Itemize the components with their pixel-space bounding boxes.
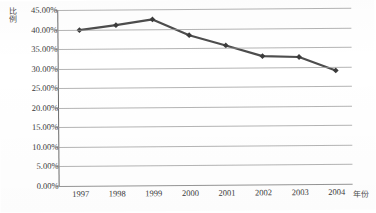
y-axis-tick-label: 45.00% <box>13 6 57 15</box>
x-axis-tick-label: 2002 <box>255 187 272 197</box>
x-axis-tick-label: 2003 <box>292 187 309 197</box>
y-axis-tick-label: 0.00% <box>15 182 59 191</box>
y-axis-tick-label: 35.00% <box>14 45 58 54</box>
plot-area <box>57 8 352 186</box>
data-point-marker <box>113 22 119 28</box>
y-axis-tick-label: 5.00% <box>14 162 58 171</box>
x-axis-tick-label: 2001 <box>218 188 235 198</box>
x-axis-tick-label: 2000 <box>182 188 199 198</box>
x-axis-tick-labels: 19971998199920002001200220032004 <box>59 187 353 205</box>
line-chart: 比例 0.00%5.00%10.00%15.00%20.00%25.00%30.… <box>0 0 376 212</box>
x-axis-tick-label: 1998 <box>109 188 126 198</box>
y-axis-tick-label: 40.00% <box>13 25 57 34</box>
data-point-marker <box>296 54 302 60</box>
y-axis-tick-label: 10.00% <box>14 143 58 152</box>
y-axis-tick-label: 25.00% <box>14 84 58 93</box>
x-axis-title: 年份 <box>353 190 369 199</box>
y-axis-tick-label: 20.00% <box>14 104 58 113</box>
data-point-marker <box>333 67 339 73</box>
y-axis-tick-label: 15.00% <box>14 123 58 132</box>
x-axis-tick-label: 1999 <box>145 188 162 198</box>
x-axis-tick-label: 1997 <box>72 189 89 199</box>
x-axis-tick-label: 2004 <box>328 187 345 197</box>
y-axis-tick-labels: 0.00%5.00%10.00%15.00%20.00%25.00%30.00%… <box>13 1 58 186</box>
data-series-line <box>57 8 352 186</box>
y-axis-tick-label: 30.00% <box>14 64 58 73</box>
data-point-marker <box>260 53 266 59</box>
